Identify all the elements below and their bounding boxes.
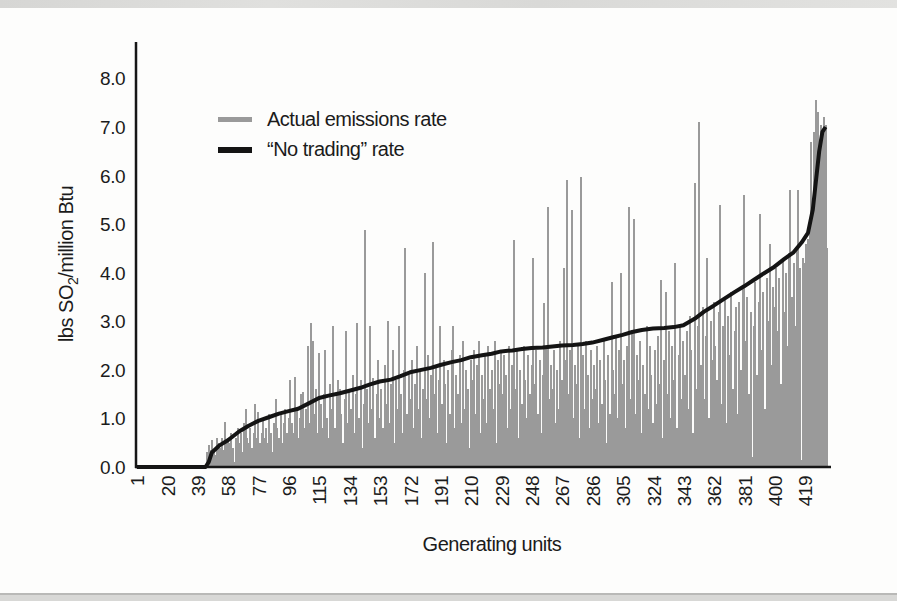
x-tick-label: 324 xyxy=(644,475,665,506)
x-tick-label: 58 xyxy=(218,476,239,496)
x-tick-label: 115 xyxy=(309,476,330,505)
x-tick-label: 305 xyxy=(613,476,634,506)
y-tick-label: 4.0 xyxy=(100,263,125,284)
x-tick-label: 343 xyxy=(674,476,695,506)
y-tick-label: 1.0 xyxy=(100,408,125,429)
x-axis-title: Generating units xyxy=(342,533,642,556)
x-tick-label: 1 xyxy=(127,476,148,486)
chart-plot-area: 0.01.02.03.04.05.06.07.08.01203958779611… xyxy=(0,0,897,601)
y-tick-label: 5.0 xyxy=(100,214,125,235)
x-tick-label: 191 xyxy=(431,476,452,506)
legend-label-actual: Actual emissions rate xyxy=(267,108,447,131)
legend-item-actual: Actual emissions rate xyxy=(218,108,447,131)
bar xyxy=(750,312,752,467)
page-bottom-strip xyxy=(0,593,897,601)
x-tick-label: 210 xyxy=(461,476,482,506)
emissions-chart-figure: 0.01.02.03.04.05.06.07.08.01203958779611… xyxy=(0,0,897,601)
y-tick-label: 8.0 xyxy=(100,68,125,89)
legend-item-no-trading: “No trading” rate xyxy=(218,138,447,161)
y-axis-title-units: /million Btu xyxy=(55,186,77,278)
y-axis-title: lbs SO2/million Btu xyxy=(55,164,79,364)
x-tick-label: 134 xyxy=(340,475,361,506)
y-axis-title-subscript: 2 xyxy=(65,278,81,285)
x-tick-label: 286 xyxy=(583,476,604,506)
x-tick-label: 248 xyxy=(522,476,543,506)
x-tick-label: 96 xyxy=(279,476,300,496)
x-tick-label: 267 xyxy=(552,476,573,506)
y-tick-label: 0.0 xyxy=(100,457,125,478)
x-tick-label: 20 xyxy=(158,476,179,496)
bar xyxy=(826,248,828,467)
x-tick-label: 153 xyxy=(370,476,391,506)
no-trading-swatch-icon xyxy=(218,147,252,153)
bar xyxy=(799,268,801,467)
chart-legend: Actual emissions rate “No trading” rate xyxy=(218,108,447,161)
y-tick-label: 2.0 xyxy=(100,360,125,381)
actual-emissions-swatch-icon xyxy=(218,117,252,122)
x-tick-label: 77 xyxy=(249,476,270,496)
x-tick-label: 400 xyxy=(765,476,786,506)
x-tick-label: 172 xyxy=(401,476,422,506)
x-tick-label: 362 xyxy=(704,476,725,506)
x-tick-label: 419 xyxy=(795,476,816,506)
x-tick-label: 229 xyxy=(492,476,513,506)
y-tick-label: 6.0 xyxy=(100,166,125,187)
legend-label-no-trading: “No trading” rate xyxy=(267,138,404,161)
y-tick-label: 7.0 xyxy=(100,117,125,138)
x-tick-label: 39 xyxy=(188,476,209,496)
y-axis-title-text: lbs SO xyxy=(55,285,77,342)
y-tick-label: 3.0 xyxy=(100,311,125,332)
x-tick-label: 381 xyxy=(735,476,756,506)
